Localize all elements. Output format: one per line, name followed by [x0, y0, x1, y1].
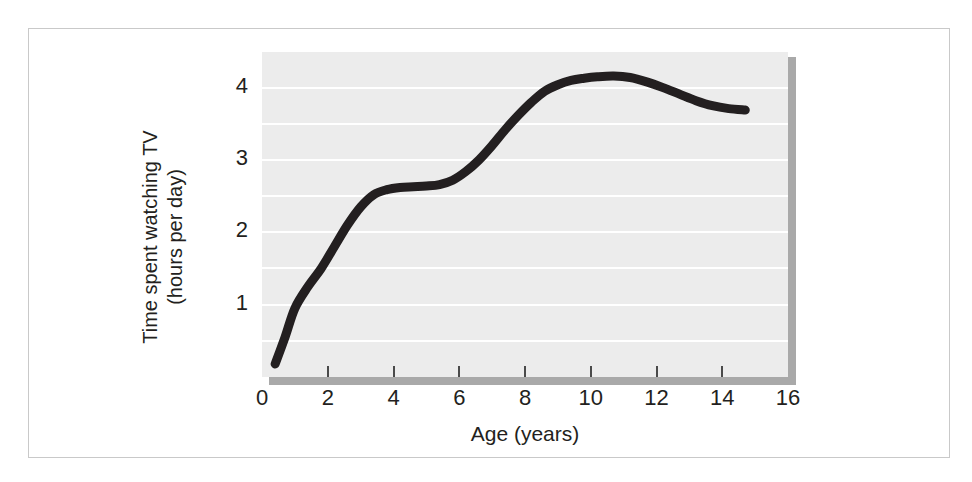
x-axis-tick: [656, 366, 658, 377]
y-axis-title-line-1: Time spent watching TV: [138, 72, 163, 402]
data-curve-svg: [262, 50, 788, 377]
x-axis-tick: [327, 366, 329, 377]
x-axis-tick-label: 16: [768, 385, 808, 411]
x-axis-tick-label: 12: [637, 385, 677, 411]
chart-figure: 0246810121416 1234 Age (years) Time spen…: [0, 0, 972, 482]
x-axis-tick-label: 6: [439, 385, 479, 411]
y-axis-tick-label: 3: [214, 145, 248, 171]
x-axis-tick-label: 8: [505, 385, 545, 411]
y-axis-tick-label: 4: [214, 73, 248, 99]
x-axis-tick-label: 2: [308, 385, 348, 411]
x-axis-tick-label: 14: [702, 385, 742, 411]
x-axis-tick: [721, 366, 723, 377]
x-axis-tick-label: 10: [571, 385, 611, 411]
y-axis-tick-label: 2: [214, 217, 248, 243]
x-axis-tick: [590, 366, 592, 377]
y-axis-title-line-2: (hours per day): [163, 72, 188, 402]
x-axis-tick: [393, 366, 395, 377]
line-series-tv-watching: [275, 76, 745, 364]
x-axis-tick: [458, 366, 460, 377]
x-axis-tick-label: 4: [374, 385, 414, 411]
x-axis-title: Age (years): [262, 422, 788, 446]
panel-shadow-bottom: [269, 377, 796, 385]
y-axis-tick-label: 1: [214, 290, 248, 316]
plot-area: [262, 50, 788, 377]
y-axis-title: Time spent watching TV (hours per day): [138, 72, 188, 402]
x-axis-tick-label: 0: [242, 385, 282, 411]
panel-shadow-right: [788, 57, 796, 384]
x-axis-tick: [524, 366, 526, 377]
